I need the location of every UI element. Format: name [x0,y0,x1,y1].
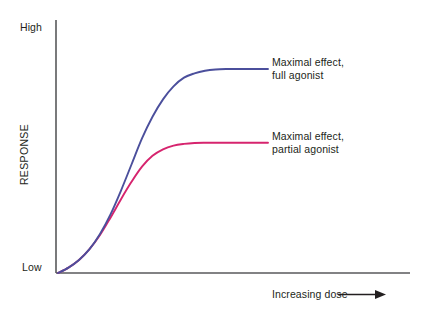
curve-partial-agonist [58,143,268,273]
legend-partial-agonist-line1: Maximal effect, [272,130,344,142]
y-axis-title: RESPONSE [18,112,31,198]
x-axis-title: Increasing dose [272,288,348,301]
dose-response-chart-figure: High Low RESPONSE Maximal effect,full ag… [0,0,424,311]
legend-partial-agonist-line2: partial agonist [272,143,339,155]
legend-label-full-agonist: Maximal effect,full agonist [272,56,344,82]
legend-label-partial-agonist: Maximal effect,partial agonist [272,130,344,156]
y-axis-low-label: Low [22,261,42,274]
chart-plot-area [0,0,424,311]
curve-full-agonist [58,69,268,273]
legend-full-agonist-line1: Maximal effect, [272,56,344,68]
y-axis-high-label: High [20,21,42,34]
legend-full-agonist-line2: full agonist [272,69,323,81]
